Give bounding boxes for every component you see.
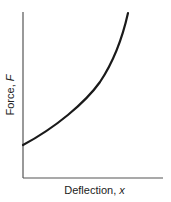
y-axis-label-variable: F	[4, 75, 16, 82]
y-axis-label-text: Force,	[4, 81, 16, 115]
x-axis-label-variable: x	[119, 184, 125, 196]
x-axis-label-text: Deflection,	[64, 184, 119, 196]
y-axis-label: Force, F	[4, 75, 16, 116]
force-curve	[23, 13, 128, 145]
force-deflection-chart	[0, 0, 171, 202]
x-axis-label: Deflection, x	[0, 184, 171, 196]
